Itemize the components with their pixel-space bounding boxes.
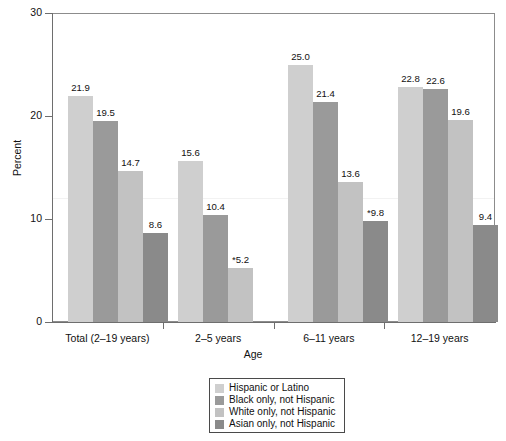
bar — [228, 268, 253, 322]
bar-value-label: 19.5 — [88, 108, 123, 118]
legend-label: Hispanic or Latino — [229, 382, 309, 394]
legend-item: White only, not Hispanic — [215, 406, 344, 418]
legend-swatch-black-only-not-hispanic — [215, 396, 224, 405]
bar-value-label: 19.6 — [443, 107, 478, 117]
legend-item: Hispanic or Latino — [215, 382, 344, 394]
bar — [143, 233, 168, 322]
legend-swatch-asian-only-not-hispanic — [215, 420, 224, 429]
bar-value-label: 9.4 — [468, 212, 503, 222]
legend-label: White only, not Hispanic — [229, 406, 336, 418]
bar — [203, 215, 228, 322]
bar-value-label: 14.7 — [113, 158, 148, 168]
bar-chart: Percent 3020100 21.919.514.78.615.610.4*… — [0, 0, 506, 441]
legend-label: Asian only, not Hispanic — [229, 418, 335, 430]
bar — [118, 171, 143, 322]
legend: Hispanic or Latino Black only, not Hispa… — [209, 378, 345, 433]
bar-value-label: *9.8 — [358, 208, 393, 218]
legend-swatch-hispanic-or-latino — [215, 384, 224, 393]
bar — [473, 225, 498, 322]
bar — [68, 96, 93, 322]
bars-layer — [0, 0, 506, 441]
bar — [313, 102, 338, 322]
legend-swatch-white-only-not-hispanic — [215, 408, 224, 417]
bar-value-label: 21.9 — [63, 83, 98, 93]
bar — [423, 89, 448, 322]
bar-value-label: 8.6 — [138, 220, 173, 230]
bar-value-label: 21.4 — [308, 89, 343, 99]
bar-value-label: 22.6 — [418, 76, 453, 86]
legend-label: Black only, not Hispanic — [229, 394, 334, 406]
x-axis-group-separator — [163, 322, 164, 329]
legend-item: Black only, not Hispanic — [215, 394, 344, 406]
bar-value-label: 25.0 — [283, 52, 318, 62]
bar — [338, 182, 363, 322]
bar — [398, 87, 423, 322]
bar-value-label: 13.6 — [333, 169, 368, 179]
bar — [363, 221, 388, 322]
x-axis-title: Age — [0, 348, 506, 360]
bar — [93, 121, 118, 322]
x-axis-group-label: 12–19 years — [370, 332, 506, 344]
bar-value-label: 15.6 — [173, 148, 208, 158]
bar-value-label: 10.4 — [198, 202, 233, 212]
bar-value-label: *5.2 — [223, 255, 258, 265]
x-axis-group-separator — [384, 322, 385, 329]
legend-item: Asian only, not Hispanic — [215, 418, 344, 430]
bar — [178, 161, 203, 322]
x-axis-group-separator — [274, 322, 275, 329]
bar — [288, 65, 313, 323]
